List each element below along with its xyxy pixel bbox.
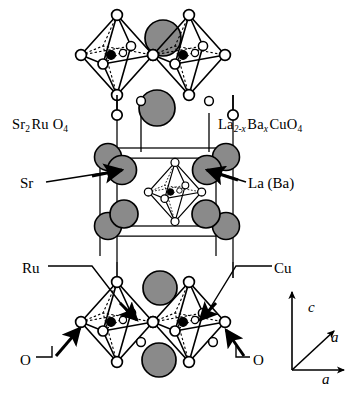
label-sr: Sr	[20, 176, 33, 191]
label-la-ba: La (Ba)	[248, 176, 294, 191]
axis-label-a-horizontal: a	[322, 372, 330, 387]
axis-label-a-diagonal: a	[331, 330, 339, 345]
o-left-arrow	[56, 328, 80, 356]
label-ru: Ru	[22, 261, 40, 276]
formula-right-sub3: 4	[297, 124, 302, 134]
cation-sphere	[192, 200, 220, 228]
formula-right: La2-x Bax CuO4	[218, 117, 302, 134]
formula-left-el1: Sr	[12, 116, 25, 132]
oxygen-vertex	[205, 97, 214, 106]
oxygen-vertex	[112, 110, 122, 120]
axis-label-c: c	[308, 300, 315, 315]
formula-right-el1: La	[218, 116, 234, 132]
cation-sphere	[142, 343, 176, 377]
formula-right-sub1: 2-x	[234, 124, 246, 134]
octahedron-top-left	[76, 10, 159, 101]
top-octahedra-layer	[76, 10, 239, 152]
bottom-octahedra-layer	[76, 262, 233, 377]
formula-right-el2: Ba	[247, 116, 264, 132]
label-o-left: O	[20, 353, 31, 368]
axis-a-diagonal-arrow	[292, 331, 334, 370]
oxygen-vertex	[137, 97, 146, 106]
cation-sphere	[110, 200, 138, 228]
label-o-right: O	[253, 353, 264, 368]
cation-sphere	[139, 90, 175, 126]
formula-left-el3: O	[53, 116, 64, 132]
formula-left-el2: Ru	[31, 116, 48, 132]
oxygen-vertex	[209, 338, 218, 347]
formula-left-sub3: 4	[63, 124, 68, 134]
oxygen-vertex	[137, 338, 146, 347]
formula-left: Sr2 Ru O4	[12, 117, 68, 134]
crystal-structure-figure	[0, 0, 350, 398]
o-right-arrow	[226, 330, 244, 356]
formula-right-el3: CuO	[269, 116, 297, 132]
label-cu: Cu	[274, 261, 292, 276]
